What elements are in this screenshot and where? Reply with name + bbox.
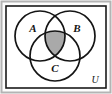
venn-diagram-canvas: A B C U [0, 0, 112, 94]
label-set-a: A [28, 22, 36, 34]
label-universal-set: U [91, 74, 99, 85]
label-set-c: C [51, 62, 59, 74]
label-set-b: B [72, 22, 80, 34]
venn-diagram-figure: A B C U [0, 0, 112, 94]
